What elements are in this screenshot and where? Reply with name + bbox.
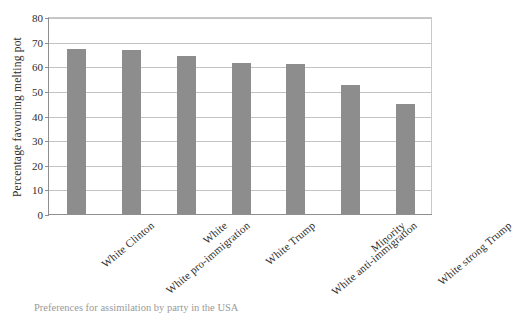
y-tick-mark-20 [45, 166, 49, 167]
y-tick-mark-40 [45, 117, 49, 118]
y-tick-mark-10 [45, 190, 49, 191]
gridline-70 [49, 43, 431, 44]
y-tick-label-10: 10 [32, 184, 43, 196]
y-tick-mark-50 [45, 92, 49, 93]
y-tick-label-0: 0 [38, 209, 44, 221]
y-tick-label-30: 30 [32, 135, 43, 147]
gridline-80 [49, 18, 431, 19]
x-axis-label: White Trump [263, 219, 317, 267]
y-tick-label-40: 40 [32, 111, 43, 123]
y-tick-mark-70 [45, 43, 49, 44]
x-axis-label: White anti-immigration [329, 219, 419, 297]
figure-caption: Preferences for assimilation by party in… [34, 302, 434, 313]
x-axis-label-text: White Trump [263, 219, 317, 267]
x-axis-label-text: White strong Trump [435, 219, 513, 287]
bar [177, 56, 196, 214]
x-axis-label-text: White Clinton [100, 219, 157, 270]
bar [396, 104, 415, 214]
bar [67, 49, 86, 214]
y-tick-mark-60 [45, 67, 49, 68]
y-tick-mark-80 [45, 18, 49, 19]
plot-area: 80706050403020100 [48, 17, 432, 214]
bar [122, 50, 141, 214]
y-axis-title: Percentage favouring melting pot [11, 22, 27, 212]
y-tick-label-50: 50 [32, 86, 43, 98]
y-tick-mark-30 [45, 141, 49, 142]
x-axis-label: White strong Trump [435, 219, 513, 287]
x-axis-label: White Clinton [100, 219, 157, 270]
y-tick-label-60: 60 [32, 61, 43, 73]
bar [286, 64, 305, 214]
bar [232, 63, 251, 214]
y-tick-mark-0 [45, 215, 49, 216]
bar [341, 85, 360, 214]
x-axis-label-text: White anti-immigration [329, 219, 419, 297]
y-tick-label-70: 70 [32, 37, 43, 49]
y-tick-label-20: 20 [32, 160, 43, 172]
y-tick-label-80: 80 [32, 12, 43, 24]
gridline-0 [49, 215, 431, 216]
